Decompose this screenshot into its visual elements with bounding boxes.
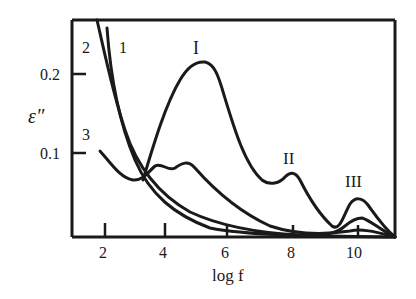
xtick-label-2: 2 <box>99 244 107 261</box>
xtick-label-8: 8 <box>287 244 295 261</box>
ytick-label-0.2: 0.2 <box>40 66 60 83</box>
peak-label-II: II <box>283 149 295 168</box>
curve-label-1: 1 <box>119 39 127 56</box>
curve-label-3: 3 <box>82 126 90 143</box>
curve-label-2: 2 <box>82 39 90 56</box>
curve-1 <box>107 28 395 237</box>
peak-label-I: I <box>193 38 199 58</box>
dielectric-loss-chart: 0.2 0.1 2 4 6 8 10 ε″ log f 2 1 3 I II I… <box>0 0 416 299</box>
curve-labels: 2 1 3 I II III <box>82 38 362 191</box>
x-axis-label: log f <box>212 266 244 285</box>
curve-3 <box>100 151 395 237</box>
ytick-label-0.1: 0.1 <box>40 145 60 162</box>
curve-peaks-I-II-III <box>143 62 395 237</box>
tick-labels: 0.2 0.1 2 4 6 8 10 <box>40 66 362 261</box>
xtick-label-4: 4 <box>159 244 167 261</box>
xtick-label-6: 6 <box>221 244 229 261</box>
xtick-label-10: 10 <box>346 244 362 261</box>
peak-label-III: III <box>345 172 362 191</box>
y-axis-label: ε″ <box>28 105 45 127</box>
